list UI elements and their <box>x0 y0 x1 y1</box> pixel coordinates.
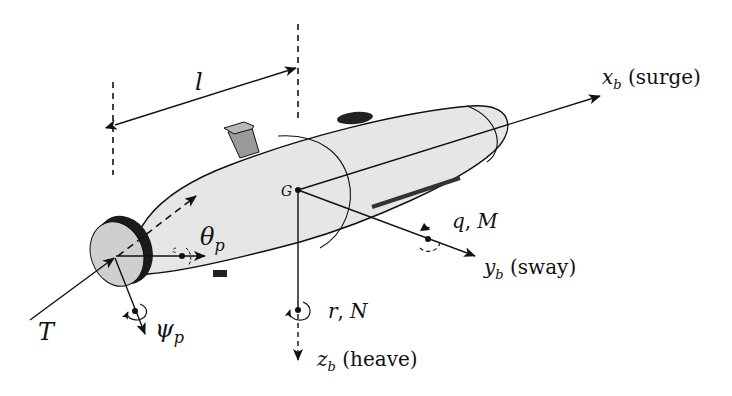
sway-label: yb (sway) <box>483 255 576 282</box>
prop-yaw-label: ψp <box>155 315 184 347</box>
heave-label: zb (heave) <box>316 347 418 374</box>
auv-hull <box>134 106 508 276</box>
length-label: l <box>195 68 203 96</box>
auv-diagram: l θp ψp T G xb (surge) q,M yb (sway) r,N <box>0 0 732 396</box>
pitch-label: q,M <box>452 209 498 233</box>
yaw-point <box>295 307 301 313</box>
yaw-label: r,N <box>328 299 369 323</box>
length-dimension-arrow <box>115 68 296 125</box>
surge-label: xb (surge) <box>602 65 701 92</box>
thrust-label: T <box>38 318 56 346</box>
prop-yaw-point <box>132 308 138 314</box>
prop-pitch-point <box>179 253 185 259</box>
center-of-gravity-label: G <box>281 183 292 199</box>
pitch-point <box>425 236 431 242</box>
thrust-arrow <box>30 258 114 320</box>
bottom-sensor <box>213 270 227 277</box>
